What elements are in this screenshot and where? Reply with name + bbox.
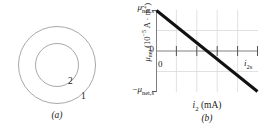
y-tick-label-zero: 0 (136, 45, 154, 54)
y-axis-unit-exponent: −5 (141, 30, 147, 37)
x-axis-label: i2 (mA) (156, 100, 258, 112)
plot-svg (156, 10, 258, 92)
y-tick-min-subscript: net,s (142, 89, 154, 96)
y-axis-mu-symbol: μ (142, 57, 152, 61)
panel-a-concentric-loops: 2 1 (a) (0, 0, 134, 132)
plot-area (156, 10, 258, 92)
y-tick-label-max: μnet,s (134, 3, 154, 14)
panel-b-caption: (b) (156, 113, 258, 123)
physics-figure: 2 1 (a) μnet (10−5 A · m2) μnet,s 0 −μne… (0, 0, 268, 132)
panel-b-plot: μnet (10−5 A · m2) μnet,s 0 −μnet,s 0 i2… (134, 0, 268, 132)
inner-loop-label: 2 (68, 77, 73, 87)
outer-loop-label: 1 (81, 92, 86, 102)
y-tick-label-min: −μnet,s (122, 85, 154, 96)
x-axis-unit: (mA) (199, 100, 222, 110)
panel-a-caption: (a) (0, 110, 114, 120)
